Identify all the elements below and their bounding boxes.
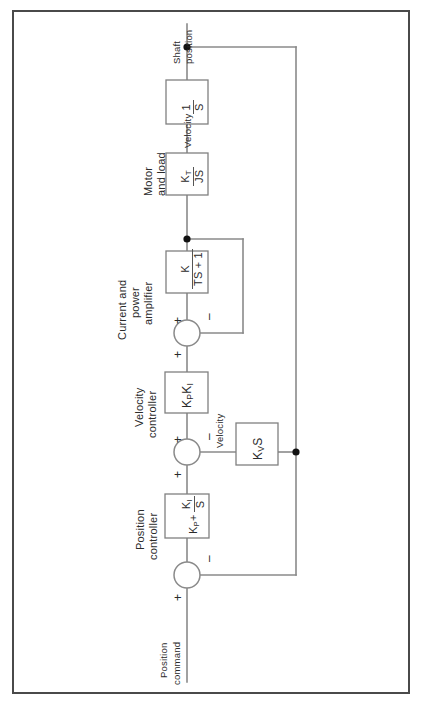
amplifier-expression: K TS + 1 <box>180 249 204 289</box>
amplifier-numerator: K <box>180 249 192 289</box>
velocity-junction-plus-left: + <box>172 436 185 443</box>
amplifier-title-line1: Current and <box>116 280 128 340</box>
amplifier-title-line2: power <box>129 287 141 318</box>
kv-expr: K <box>251 452 265 460</box>
current-junction-minus-sign: – <box>203 313 216 320</box>
label-shaft-position: Shaft <box>172 41 183 64</box>
current-junction-plus-bottom: + <box>172 351 185 358</box>
motor-and-load-title-line2: and load <box>155 152 167 196</box>
label-shaft-position-line1: Shaft <box>171 41 182 64</box>
kv-sub: V <box>256 446 266 452</box>
motor-denominator: JS <box>193 167 206 186</box>
diagram-page: Shaft position 1 S Velocity Motor and lo… <box>0 0 422 705</box>
node-current-takeoff <box>183 235 190 242</box>
velocity-controller-expression: KPKI <box>181 383 196 408</box>
position-controller-title-line1: Position <box>134 509 146 550</box>
velocity-junction-minus-sign: – <box>203 433 216 440</box>
label-shaft-position-line2-wrap: position <box>184 30 195 64</box>
pc-lead-sub: P <box>192 521 201 526</box>
label-position-command-line2: command <box>172 642 183 685</box>
amplifier-denominator: TS + 1 <box>192 249 205 289</box>
summing-junction-position <box>174 562 200 588</box>
velocity-controller-title-line1: Velocity <box>133 387 145 427</box>
node-velocity-feedback-takeoff <box>292 448 299 455</box>
integrator-denominator: S <box>193 100 206 114</box>
label-velocity-feedback: Velocity <box>215 414 226 448</box>
position-controller-expression: KP+ KI S <box>181 496 207 534</box>
label-position-command-line1: Position <box>159 643 170 678</box>
integrator-numerator: 1 <box>181 100 193 114</box>
pc-numerator: KI <box>181 496 194 512</box>
vc-expr2: K <box>180 386 194 394</box>
vc-expr1: K <box>180 400 194 408</box>
label-velocity-output: Velocity <box>183 114 194 148</box>
amplifier-title-line3: amplifier <box>142 282 154 325</box>
kv-tail: S <box>251 438 265 446</box>
block-diagram-canvas <box>0 0 422 705</box>
current-junction-plus-left: + <box>172 317 185 324</box>
position-controller-title-line2: controller <box>147 513 159 560</box>
pc-plus: + <box>187 514 199 521</box>
motor-and-load-expression: KT JS <box>180 167 206 186</box>
integrator-expression: 1 S <box>181 100 205 114</box>
vc-sub2: I <box>185 383 195 386</box>
motor-and-load-title-line1: Motor <box>142 167 154 196</box>
velocity-controller-title-line2: controller <box>146 391 158 438</box>
position-junction-minus-sign: – <box>203 555 216 562</box>
pc-denominator: S <box>194 496 207 512</box>
label-velocity-output-text: Velocity <box>182 114 193 148</box>
label-shaft-position-line2: position <box>183 30 194 64</box>
position-junction-plus-sign: + <box>172 594 185 601</box>
velocity-gain-expression: KVS <box>252 438 267 460</box>
motor-numerator: KT <box>180 167 193 186</box>
vc-sub1: P <box>185 394 195 400</box>
pc-lead: K <box>187 526 199 534</box>
velocity-junction-plus-bottom: + <box>172 471 185 478</box>
